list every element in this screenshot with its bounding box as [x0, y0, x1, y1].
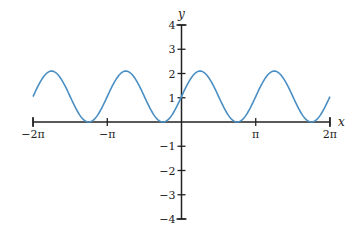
x-tick-label: 2π — [323, 128, 337, 141]
x-tick-label: −π — [99, 128, 115, 141]
y-tick-label: 3 — [169, 43, 176, 56]
y-tick-label: 2 — [169, 68, 176, 81]
y-tick-label: −2 — [159, 165, 175, 178]
y-tick-label: −1 — [159, 140, 175, 153]
x-axis-label: x — [338, 115, 345, 129]
y-tick-label: 1 — [169, 92, 176, 105]
y-tick-label: 4 — [169, 19, 176, 32]
x-tick-label: −2π — [21, 128, 44, 141]
y-axis-label: y — [177, 7, 185, 21]
y-tick-label: −4 — [159, 213, 175, 226]
axes — [33, 25, 330, 219]
x-tick-label: π — [252, 128, 259, 141]
sine-chart: −2π−ππ2π4321−1−2−3−4 x y — [0, 0, 359, 239]
y-tick-label: −3 — [159, 189, 175, 202]
